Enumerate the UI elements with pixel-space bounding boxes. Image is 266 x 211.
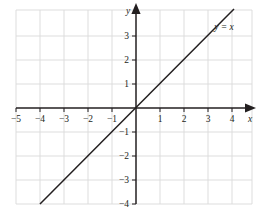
y-tick-label: −4 [119, 199, 129, 209]
y-tick-label: 3 [124, 31, 129, 41]
x-tick-label: −2 [83, 114, 93, 124]
x-tick-label: −5 [11, 114, 21, 124]
curve-equation-label: y = x [213, 22, 234, 32]
y-axis-label: y [125, 6, 131, 16]
coordinate-plane-figure: −5 −4 −3 −2 −1 1 2 3 4 3 2 1 −1 −2 −3 −4… [0, 0, 266, 211]
y-tick-label: −3 [119, 175, 129, 185]
x-tick-label: −1 [107, 114, 117, 124]
y-tick-label: −1 [119, 127, 129, 137]
y-tick-label: 1 [124, 79, 129, 89]
x-tick-label: 2 [182, 114, 187, 124]
x-tick-label: 4 [230, 114, 235, 124]
x-tick-label: 1 [158, 114, 163, 124]
x-tick-label: −3 [59, 114, 69, 124]
y-tick-label: −2 [119, 151, 129, 161]
x-axis-label: x [247, 114, 253, 124]
graph-screenshot: −5 −4 −3 −2 −1 1 2 3 4 3 2 1 −1 −2 −3 −4… [0, 0, 266, 211]
y-tick-label: 2 [124, 55, 129, 65]
x-tick-label: 3 [206, 114, 211, 124]
x-tick-label: −4 [35, 114, 45, 124]
